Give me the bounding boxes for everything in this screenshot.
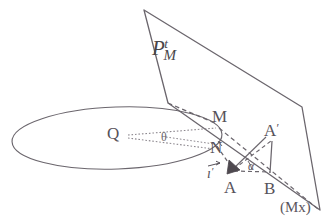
point-label-n: N <box>210 139 222 156</box>
figure-canvas: PtM Q θ M N A A′ B α ı′ (Mx) <box>0 0 333 224</box>
point-label-m: M <box>212 108 227 125</box>
plane-label-subscript: M <box>163 47 176 63</box>
prime-mark-icon: ′ <box>277 121 280 135</box>
geometry-diagram <box>0 0 333 224</box>
dotted-radius-lines <box>128 128 216 149</box>
point-label-a: A <box>224 179 236 196</box>
vector-i-arrowhead <box>227 160 240 174</box>
vector-label-i-prime: ı′ <box>207 166 213 181</box>
plane-label: PtM <box>152 37 176 63</box>
angle-label-alpha: α <box>248 160 254 172</box>
angle-label-theta: θ <box>161 131 167 143</box>
point-label-a-prime: A′ <box>264 122 279 139</box>
point-label-b: B <box>264 180 275 197</box>
axis-label-mx: (Mx) <box>280 200 311 215</box>
point-label-a-prime-base: A <box>264 121 276 140</box>
point-label-q: Q <box>107 125 119 142</box>
vector-prime-mark-icon: ′ <box>211 165 213 177</box>
